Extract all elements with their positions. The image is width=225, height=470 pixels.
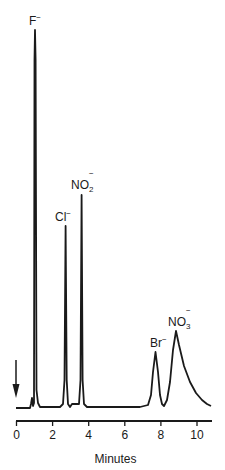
peak-label-nitrate: NO−3 xyxy=(168,316,190,328)
peak-label-chloride: Cl− xyxy=(55,211,71,223)
label-base: NO xyxy=(71,178,89,192)
label-base: NO xyxy=(168,315,186,329)
x-tick-label: 10 xyxy=(190,428,203,442)
x-tick-label: 2 xyxy=(49,428,56,442)
x-tick-label: 4 xyxy=(85,428,92,442)
peak-label-nitrite: NO−2 xyxy=(71,179,93,191)
chromatogram-plot xyxy=(0,0,225,470)
x-tick-label: 8 xyxy=(158,428,165,442)
chromatogram-trace xyxy=(16,30,211,408)
injection-arrow-icon xyxy=(13,360,20,398)
label-subscript: 2 xyxy=(89,185,93,194)
label-base: Br xyxy=(150,336,162,350)
label-subscript: 3 xyxy=(186,322,190,331)
label-charge: − xyxy=(66,209,71,218)
x-tick-label: 6 xyxy=(121,428,128,442)
label-base: Cl xyxy=(55,210,66,224)
peak-label-bromide: Br− xyxy=(150,337,167,349)
x-axis xyxy=(16,421,212,426)
peak-label-fluoride: F− xyxy=(29,15,41,27)
label-charge: − xyxy=(162,335,167,344)
x-tick-label: 0 xyxy=(13,428,20,442)
x-axis-label: Minutes xyxy=(0,452,225,466)
label-charge: − xyxy=(36,13,41,22)
